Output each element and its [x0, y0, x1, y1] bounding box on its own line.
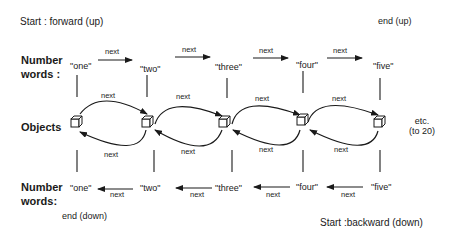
- cube-icon: [142, 116, 153, 127]
- bottom-next-label: next: [190, 190, 204, 199]
- cube-icon: [374, 116, 385, 127]
- lower-curve-next-label: next: [104, 150, 118, 159]
- lower-curve-next-label: next: [181, 147, 195, 156]
- top-next-label: next: [333, 46, 347, 55]
- bottom-next-label: next: [341, 190, 355, 199]
- lower-curved-arrows: [80, 130, 378, 146]
- bottom-word-four: "four": [296, 182, 318, 192]
- continuation-note: etc. (to 20): [409, 116, 435, 136]
- top-word-five: "five": [373, 61, 393, 71]
- top-word-three: "three": [215, 62, 242, 72]
- top-word-one: "one": [70, 61, 91, 71]
- bottom-next-label: next: [110, 190, 124, 199]
- bottom-word-five: "five": [371, 182, 391, 192]
- cube-icon: [219, 116, 230, 127]
- bottom-word-one: "one": [70, 183, 91, 193]
- diagram-graphics: [0, 0, 449, 243]
- top-word-two: "two": [140, 64, 160, 74]
- start-forward-caption: Start : forward (up): [20, 16, 103, 27]
- object-cubes: [71, 114, 385, 127]
- bottom-word-two: "two": [140, 183, 160, 193]
- upper-curve-next-label: next: [255, 94, 269, 103]
- cube-icon: [71, 116, 82, 127]
- lower-curve-next-label: next: [334, 145, 348, 154]
- bottom-row-label: Number words:: [21, 180, 63, 208]
- bottom-next-label: next: [266, 190, 280, 199]
- top-next-label: next: [182, 45, 196, 54]
- top-row-label: Number words :: [21, 53, 63, 81]
- objects-row-label: Objects: [21, 120, 61, 134]
- top-next-label: next: [105, 47, 119, 56]
- bottom-word-three: "three": [215, 183, 242, 193]
- lower-curve-next-label: next: [259, 145, 273, 154]
- bottom-row-label-line2: words:: [21, 194, 63, 208]
- start-backward-caption: Start :backward (down): [320, 217, 423, 228]
- top-next-label: next: [259, 46, 273, 55]
- end-up-caption: end (up): [378, 16, 412, 26]
- upper-curve-next-label: next: [176, 92, 190, 101]
- top-word-four: "four": [296, 60, 318, 70]
- top-next-arrows: [98, 57, 362, 60]
- upper-curve-next-label: next: [332, 94, 346, 103]
- continuation-line1: etc.: [409, 116, 435, 126]
- end-down-caption: end (down): [62, 211, 107, 221]
- upper-curve-next-label: next: [101, 91, 115, 100]
- top-row-label-line1: Number: [21, 53, 63, 67]
- bottom-row-label-line1: Number: [21, 180, 63, 194]
- continuation-line2: (to 20): [409, 126, 435, 136]
- top-row-label-line2: words :: [21, 67, 63, 81]
- cube-icon: [297, 114, 308, 125]
